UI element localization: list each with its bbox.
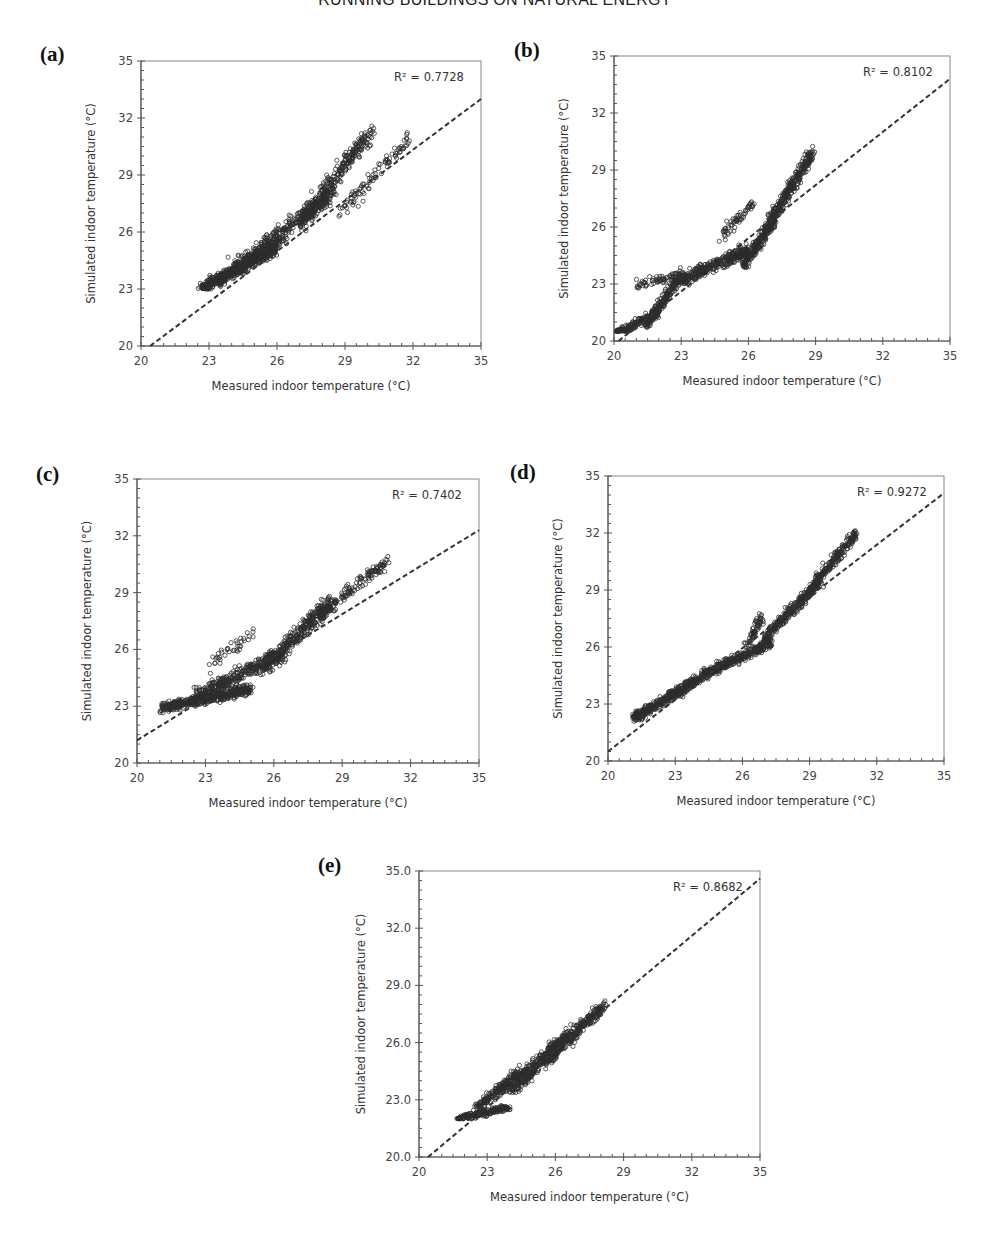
y-tick-label: 35.0 bbox=[385, 864, 411, 878]
y-tick-label: 26.0 bbox=[385, 1036, 411, 1050]
y-tick-label: 20.0 bbox=[385, 1150, 411, 1164]
x-tick-label: 32 bbox=[684, 1165, 699, 1179]
r-squared-annotation: R² = 0.8682 bbox=[673, 880, 743, 894]
scatter-plot-e: 20232629323520.023.026.029.032.035.0Meas… bbox=[0, 0, 990, 1249]
x-tick-label: 35 bbox=[753, 1165, 768, 1179]
fit-line bbox=[428, 879, 760, 1157]
data-points bbox=[455, 999, 608, 1121]
y-tick-label: 29.0 bbox=[385, 978, 411, 992]
y-axis-title: Simulated indoor temperature (°C) bbox=[354, 914, 368, 1115]
x-tick-label: 20 bbox=[412, 1165, 427, 1179]
x-axis-title: Measured indoor temperature (°C) bbox=[490, 1190, 689, 1204]
x-tick-label: 26 bbox=[548, 1165, 563, 1179]
x-tick-label: 23 bbox=[480, 1165, 495, 1179]
x-tick-label: 29 bbox=[616, 1165, 631, 1179]
y-tick-label: 23.0 bbox=[385, 1093, 411, 1107]
y-tick-label: 32.0 bbox=[385, 921, 411, 935]
